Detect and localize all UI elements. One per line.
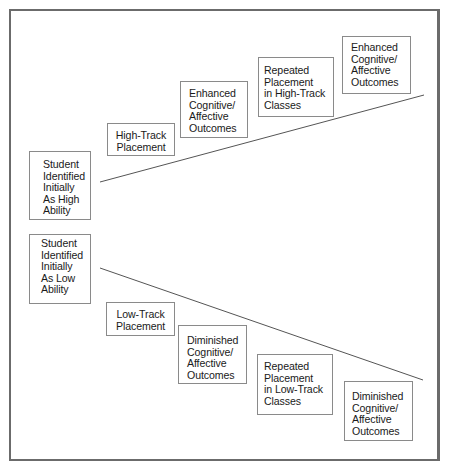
high-track-placement-box: High-Track Placement <box>107 123 175 156</box>
box-text-line: in Low-Track <box>264 384 329 396</box>
box-text-line: in High-Track <box>264 88 330 100</box>
box-text-line: Student <box>41 238 86 250</box>
box-text-line: Repeated <box>264 65 330 77</box>
box-text-line: Classes <box>264 396 329 408</box>
diminished-outcomes-box-2: Diminished Cognitive/ Affective Outcomes <box>344 381 413 441</box>
low-ability-start-box: Student Identified Initially As Low Abil… <box>29 234 91 304</box>
box-text-line: Affective <box>352 414 409 426</box>
box-text-line: Outcomes <box>189 123 243 135</box>
box-text-line: Repeated <box>264 361 329 373</box>
high-ability-start-box: Student Identified Initially As High Abi… <box>29 151 91 220</box>
box-text-line: Initially <box>43 182 86 194</box>
diminished-outcomes-box-1: Diminished Cognitive/ Affective Outcomes <box>178 325 247 384</box>
box-text-line: Low-Track <box>109 309 172 321</box>
box-text-line: Placement <box>109 321 172 333</box>
box-text-line: High-Track <box>110 130 172 142</box>
box-text-line: Ability <box>41 284 86 296</box>
box-text-line: Outcomes <box>351 77 406 89</box>
box-text-line: Outcomes <box>352 426 409 438</box>
box-text-line: Diminished <box>352 391 409 403</box>
enhanced-outcomes-box-2: Enhanced Cognitive/ Affective Outcomes <box>342 36 411 94</box>
box-text-line: Enhanced <box>189 88 243 100</box>
box-text-line: Affective <box>187 358 243 370</box>
box-text-line: Initially <box>41 261 86 273</box>
box-text-line: Affective <box>351 65 406 77</box>
box-text-line: Diminished <box>187 335 243 347</box>
enhanced-outcomes-box-1: Enhanced Cognitive/ Affective Outcomes <box>180 81 248 138</box>
box-text-line: Ability <box>43 205 86 217</box>
repeated-low-track-box: Repeated Placement in Low-Track Classes <box>257 354 333 415</box>
box-text-line: Student <box>43 159 86 171</box>
repeated-high-track-box: Repeated Placement in High-Track Classes <box>258 57 334 117</box>
box-text-line: Placement <box>110 142 172 154</box>
box-text-line: Classes <box>264 100 330 112</box>
box-text-line: Affective <box>189 111 243 123</box>
box-text-line: Outcomes <box>187 370 243 382</box>
box-text-line: Enhanced <box>351 42 406 54</box>
low-track-placement-box: Low-Track Placement <box>106 302 175 336</box>
